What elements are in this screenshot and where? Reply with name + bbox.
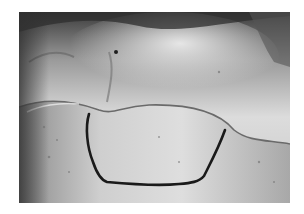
left-shadow bbox=[19, 12, 49, 203]
suture-mark bbox=[114, 50, 118, 54]
surgical-photo bbox=[19, 12, 290, 203]
photo-illustration bbox=[19, 12, 290, 203]
